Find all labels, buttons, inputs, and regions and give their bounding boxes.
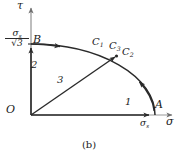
sigma-axis-tick-value: σs <box>140 119 149 128</box>
tau-tick-numerator: σs <box>2 29 32 38</box>
path-label-3: 3 <box>57 75 63 85</box>
stress-path-diagram: τ σ σs √3 σs O A B C1 C3 C2 1 2 3 (b) <box>0 0 178 160</box>
figure-caption: (b) <box>0 139 178 150</box>
point-label-c3: C3 <box>109 41 121 51</box>
point-label-c1: C1 <box>92 37 104 47</box>
c3-subscript: 3 <box>117 45 121 52</box>
sigma-tick-subscript: s <box>146 123 149 129</box>
c2-subscript: 2 <box>130 51 134 58</box>
sigma-axis-label: σ <box>166 116 174 127</box>
tau-axis-tick-value: σs √3 <box>2 29 32 48</box>
point-label-a: A <box>155 99 163 110</box>
path-1-arc-arrow <box>140 82 155 111</box>
tau-axis-label: τ <box>17 0 23 11</box>
tau-tick-numerator-symbol: σ <box>12 28 18 38</box>
point-label-b: B <box>33 34 41 45</box>
path-label-2: 2 <box>31 60 37 70</box>
path-3-segment <box>31 57 115 115</box>
c2-symbol: C <box>122 46 130 57</box>
radical-value: 3 <box>17 38 23 48</box>
c3-symbol: C <box>109 40 117 51</box>
point-label-o: O <box>6 104 15 115</box>
c1-symbol: C <box>92 36 100 47</box>
c1-subscript: 1 <box>100 41 104 48</box>
yield-locus-curve <box>31 44 155 115</box>
tau-tick-denominator: √3 <box>2 39 32 48</box>
diagram-canvas <box>0 0 178 160</box>
path-label-1: 1 <box>125 97 131 107</box>
c3-point-marker <box>115 54 118 57</box>
point-label-c2: C2 <box>122 47 134 57</box>
